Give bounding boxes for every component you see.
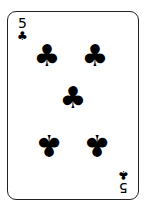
top-left-index: 5 ♣ [17, 16, 28, 42]
playing-card[interactable]: 5 ♣ 5 ♣ ♣♣♣♣♣ [7, 11, 139, 200]
rank-label: 5 [18, 16, 27, 30]
club-pip-icon: ♣ [36, 130, 63, 160]
club-icon: ♣ [17, 30, 28, 42]
club-pip-icon: ♣ [84, 130, 111, 160]
club-icon: ♣ [118, 169, 129, 181]
bottom-right-index: 5 ♣ [118, 169, 129, 195]
club-pip-icon: ♣ [34, 41, 61, 71]
club-pip-icon: ♣ [82, 41, 109, 71]
club-pip-icon: ♣ [60, 83, 87, 113]
rank-label: 5 [119, 181, 128, 195]
